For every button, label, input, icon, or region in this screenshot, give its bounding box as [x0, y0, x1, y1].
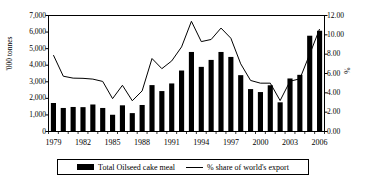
- bar: [120, 105, 125, 131]
- legend-line-swatch-icon: [186, 167, 203, 168]
- legend-bar-swatch-icon: [77, 164, 94, 170]
- bar: [80, 107, 85, 131]
- bar: [140, 105, 145, 132]
- bar: [189, 52, 194, 132]
- bar: [90, 104, 95, 131]
- line-series: [53, 21, 319, 100]
- bar: [169, 83, 174, 131]
- bar: [297, 75, 302, 132]
- bar: [218, 52, 223, 132]
- bar: [100, 108, 105, 132]
- bar: [179, 71, 184, 132]
- chart-legend: Total Oilseed cake meal % share of world…: [57, 159, 309, 175]
- bar: [278, 102, 283, 131]
- legend-label-bars: Total Oilseed cake meal: [98, 163, 175, 172]
- bar: [71, 107, 76, 132]
- plot-area: [0, 0, 366, 182]
- bar: [199, 67, 204, 132]
- bar: [228, 57, 233, 132]
- bar-series: [51, 31, 322, 132]
- legend-item-bars: Total Oilseed cake meal: [77, 163, 175, 172]
- chart-container: '000 tonnes % 01,0002,0003,0004,0005,000…: [0, 0, 366, 182]
- bar: [51, 103, 56, 132]
- bar: [149, 85, 154, 131]
- legend-label-line: % share of world's export: [207, 163, 289, 172]
- bar: [159, 91, 164, 131]
- bar: [130, 113, 135, 131]
- bar: [238, 75, 243, 131]
- bar: [268, 85, 273, 131]
- bar: [61, 108, 66, 132]
- bar: [317, 31, 322, 132]
- legend-item-line: % share of world's export: [186, 163, 289, 172]
- bar: [258, 92, 263, 131]
- bar: [209, 60, 214, 132]
- bar: [248, 89, 253, 131]
- bar: [110, 115, 115, 132]
- bar: [287, 78, 292, 131]
